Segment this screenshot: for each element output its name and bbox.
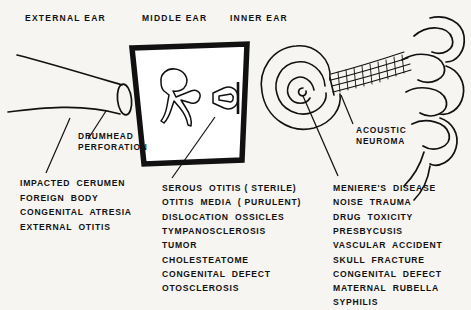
list-item: DRUG TOXICITY — [333, 212, 413, 222]
list-item: NOISE TRAUMA — [333, 197, 412, 207]
header-inner-ear: INNER EAR — [230, 13, 288, 23]
header-external-ear: EXTERNAL EAR — [25, 13, 106, 23]
list-item: CONGENITAL DEFECT — [162, 269, 271, 279]
list-item: FOREIGN BODY — [20, 193, 99, 203]
brainstem-contours — [402, 17, 464, 200]
external-auditory-canal-funnel — [8, 55, 122, 114]
leader-line-acoustic-neuroma — [341, 95, 353, 124]
list-item: OTOSCLEROSIS — [162, 283, 239, 293]
list-item: TYMPANOSCLEROSIS — [162, 226, 266, 236]
list-item: EXTERNAL OTITIS — [20, 222, 111, 232]
callout-acoustic-neuroma-line2: NEUROMA — [356, 136, 405, 146]
list-item: CONGENITAL DEFECT — [333, 269, 442, 279]
callout-drumhead-perforation-line2: PERFORATION — [78, 142, 148, 152]
callout-acoustic-neuroma-line1: ACOUSTIC — [356, 125, 407, 135]
list-item: DISLOCATION OSSICLES — [162, 212, 285, 222]
tympanic-membrane-ellipse — [116, 83, 133, 115]
list-item: PRESBYCUSIS — [333, 226, 403, 236]
list-item: IMPACTED CERUMEN — [20, 178, 125, 188]
list-item: SKULL FRACTURE — [333, 255, 425, 265]
list-item: SEROUS OTITIS ( STERILE) — [162, 183, 296, 193]
list-item: MATERNAL RUBELLA — [333, 283, 439, 293]
callout-drumhead-perforation-line1: DRUMHEAD — [78, 131, 134, 141]
list-item: CHOLESTEATOME — [162, 255, 249, 265]
header-middle-ear: MIDDLE EAR — [142, 13, 207, 23]
list-item: SYPHILIS — [333, 297, 378, 307]
ear-anatomy-diagram: EXTERNAL EAR MIDDLE EAR INNER EAR DRUMHE… — [0, 0, 471, 310]
list-item: VASCULAR ACCIDENT — [333, 240, 442, 250]
cochlea-spiral — [261, 46, 340, 129]
leader-line-external-ear — [46, 118, 70, 173]
list-item: OTITIS MEDIA ( PURULENT) — [162, 197, 301, 207]
list-item: TUMOR — [162, 240, 197, 250]
acoustic-nerve-hatched-bundle — [330, 52, 411, 95]
list-item: CONGENITAL ATRESIA — [20, 207, 132, 217]
list-item: MENIERE'S DISEASE — [333, 183, 436, 193]
